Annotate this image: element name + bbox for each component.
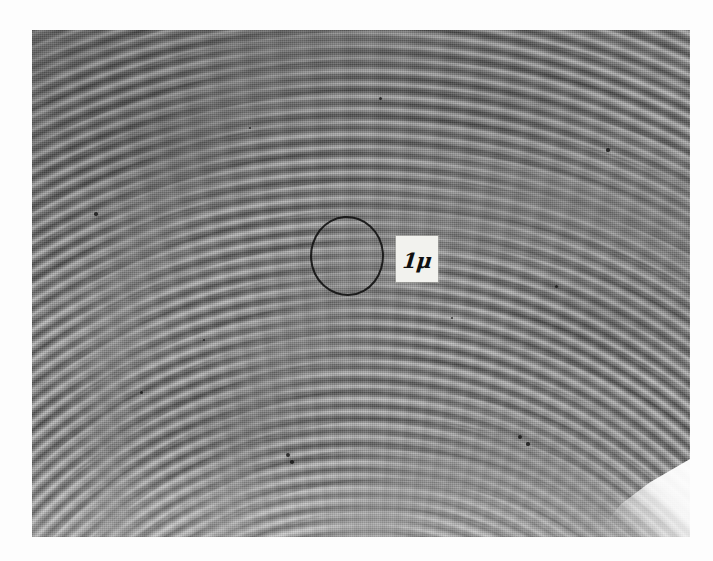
emulsion-speck [140, 391, 143, 394]
emulsion-speck [526, 442, 529, 445]
scale-label-text: 1μ [402, 250, 432, 271]
emulsion-speck [606, 148, 609, 151]
figure-root: 1μ [0, 0, 713, 561]
emulsion-speck [555, 285, 558, 288]
scale-label-sticker: 1μ [396, 236, 438, 282]
emulsion-speck [94, 212, 97, 215]
emulsion-speck [379, 97, 382, 100]
emulsion-speck [290, 460, 294, 464]
